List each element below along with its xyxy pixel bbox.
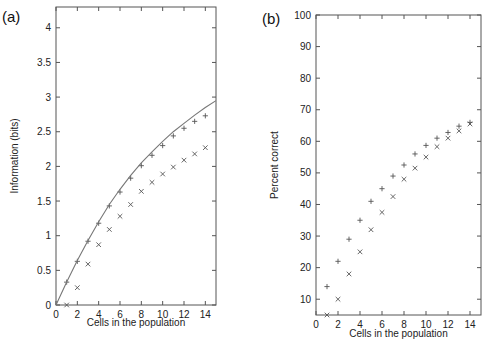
y-tick-label: 50 [300, 167, 312, 178]
cross-marker [96, 242, 101, 247]
y-tick-label: 2 [45, 161, 51, 172]
y-tick-label: 0 [45, 300, 51, 311]
cross-marker [435, 144, 440, 149]
y-tick-label: 3.5 [37, 57, 51, 68]
plus-marker [192, 119, 197, 124]
y-tick-label: 1 [45, 230, 51, 241]
plot-frame [56, 7, 216, 305]
plus-marker [401, 162, 406, 167]
cross-marker [336, 297, 341, 302]
y-tick-label: 30 [300, 231, 312, 242]
y-tick-label: 60 [300, 136, 312, 147]
cross-marker [424, 155, 429, 160]
x-tick-label: 14 [200, 309, 212, 320]
x-tick-label: 2 [335, 319, 341, 330]
cross-marker [347, 272, 352, 277]
figure-canvas: (a)0246810121400.511.522.533.54Cells in … [0, 0, 490, 348]
cross-marker [380, 210, 385, 215]
plus-marker [390, 173, 395, 178]
cross-marker [86, 262, 91, 267]
y-tick-label: 3 [45, 92, 51, 103]
y-tick-label: 10 [300, 294, 312, 305]
y-axis-title: Information (bits) [9, 118, 20, 193]
cross-marker [128, 202, 133, 207]
cross-marker [75, 285, 80, 290]
cross-marker [413, 166, 418, 171]
y-tick-label: 70 [300, 104, 312, 115]
plot-frame [316, 15, 481, 315]
cross-marker [107, 227, 112, 232]
plus-marker [171, 133, 176, 138]
cross-marker [203, 145, 208, 150]
y-tick-label: 90 [300, 41, 312, 52]
x-tick-label: 0 [313, 319, 319, 330]
plus-marker [456, 124, 461, 129]
panel-label: (a) [2, 8, 20, 25]
y-tick-label: 4 [45, 22, 51, 33]
plus-marker [445, 130, 450, 135]
cross-marker [391, 194, 396, 199]
y-tick-label: 40 [300, 199, 312, 210]
cross-marker [118, 214, 123, 219]
x-axis-title: Cells in the population [87, 317, 185, 328]
cross-marker [171, 165, 176, 170]
plus-series [324, 120, 472, 289]
cross-marker [182, 158, 187, 163]
plus-marker [181, 126, 186, 131]
plus-marker [335, 259, 340, 264]
y-tick-label: 2.5 [37, 126, 51, 137]
cross-marker [457, 129, 462, 134]
plus-marker [346, 237, 351, 242]
plus-marker [423, 143, 428, 148]
plus-marker [357, 218, 362, 223]
plus-marker [379, 186, 384, 191]
plus-marker [412, 151, 417, 156]
plus-marker [368, 199, 373, 204]
y-axis-title: Percent correct [269, 131, 280, 199]
x-tick-label: 0 [53, 309, 59, 320]
fit-curve-line [56, 101, 216, 305]
cross-series [325, 122, 473, 318]
x-tick-label: 14 [464, 319, 476, 330]
chart-panel-a: (a)0246810121400.511.522.533.54Cells in … [2, 7, 216, 328]
cross-marker [358, 250, 363, 255]
x-tick-label: 2 [75, 309, 81, 320]
cross-marker [446, 136, 451, 141]
y-tick-label: 100 [294, 10, 311, 21]
cross-marker [160, 172, 165, 177]
plus-series [64, 113, 208, 285]
y-tick-label: 0.5 [37, 265, 51, 276]
y-tick-label: 80 [300, 73, 312, 84]
plus-marker [434, 136, 439, 141]
cross-marker [402, 177, 407, 182]
plus-marker [203, 113, 208, 118]
plus-marker [324, 284, 329, 289]
cross-marker [150, 180, 155, 185]
cross-marker [139, 189, 144, 194]
cross-marker [192, 152, 197, 157]
x-axis-title: Cells in the population [349, 328, 447, 339]
y-tick-label: 1.5 [37, 196, 51, 207]
chart-panel-b: (b)02468101214102030405060708090100Cells… [262, 10, 481, 340]
panel-label: (b) [262, 10, 280, 27]
y-tick-label: 20 [300, 262, 312, 273]
cross-marker [369, 227, 374, 232]
